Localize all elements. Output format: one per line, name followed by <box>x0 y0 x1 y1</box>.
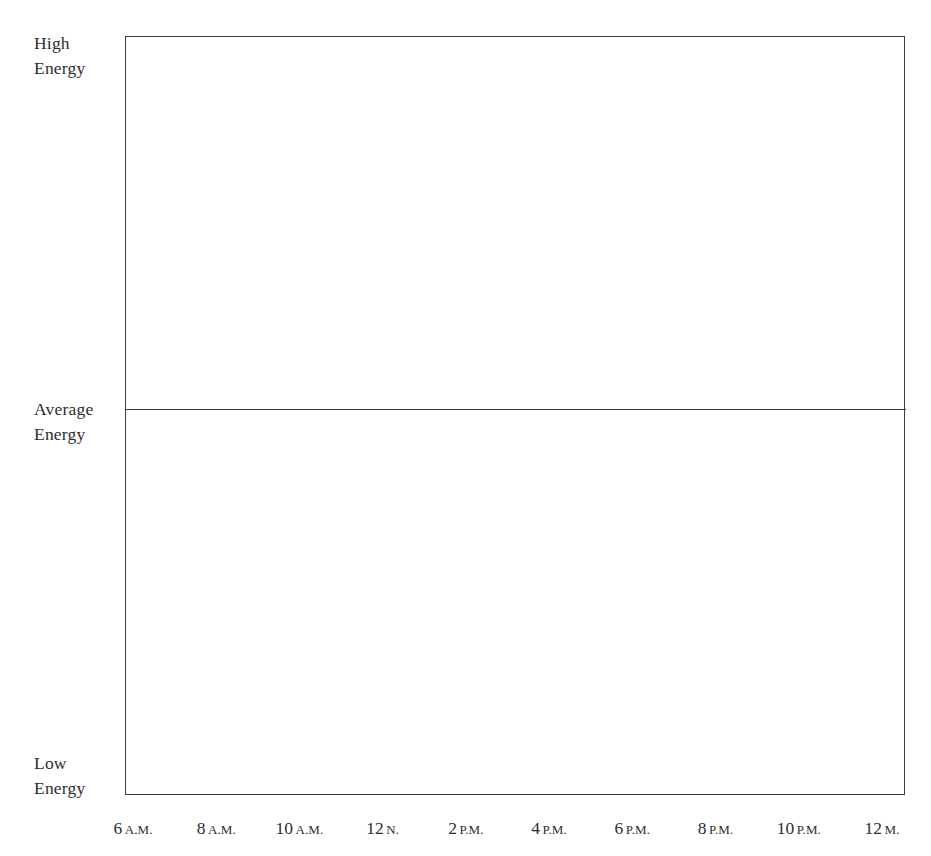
y-axis-label-average-energy: Average Energy <box>34 397 120 447</box>
x-axis-tick-label: 8A.M. <box>197 817 236 841</box>
x-axis-tick-meridiem: N. <box>386 822 399 837</box>
x-axis-tick-label: 2P.M. <box>448 817 484 841</box>
x-axis-tick-number: 10 <box>276 818 294 838</box>
energy-level-chart: High Energy Average Energy Low Energy 6A… <box>0 0 931 856</box>
x-axis-tick-number: 4 <box>531 818 540 838</box>
x-axis-tick-meridiem: P.M. <box>543 822 567 837</box>
x-axis-tick-label: 12M. <box>864 817 899 841</box>
x-axis-tick-label: 12N. <box>366 817 399 841</box>
x-axis-tick-number: 8 <box>197 818 206 838</box>
x-axis-tick-label: 6P.M. <box>615 817 651 841</box>
x-axis-tick-meridiem: P.M. <box>797 822 821 837</box>
x-axis-tick-meridiem: A.M. <box>208 822 236 837</box>
x-axis-tick-labels: 6A.M.8A.M.10A.M.12N.2P.M.4P.M.6P.M.8P.M.… <box>125 817 910 847</box>
x-axis-tick-number: 2 <box>448 818 457 838</box>
x-axis-tick-meridiem: P.M. <box>626 822 650 837</box>
x-axis-tick-number: 8 <box>698 818 707 838</box>
y-axis-label-high-energy-line2: Energy <box>34 56 120 81</box>
x-axis-tick-meridiem: P.M. <box>709 822 733 837</box>
y-axis-label-high-energy: High Energy <box>34 31 120 81</box>
y-axis-label-low-energy: Low Energy <box>34 751 120 801</box>
x-axis-tick-meridiem: A.M. <box>296 822 324 837</box>
x-axis-tick-number: 6 <box>113 818 122 838</box>
y-axis-label-low-energy-line1: Low <box>34 751 120 776</box>
x-axis-tick-number: 12 <box>864 818 882 838</box>
plot-area <box>125 36 905 795</box>
x-axis-tick-label: 6A.M. <box>113 817 152 841</box>
x-axis-tick-label: 8P.M. <box>698 817 734 841</box>
x-axis-tick-meridiem: M. <box>884 822 899 837</box>
x-axis-tick-number: 12 <box>366 818 384 838</box>
x-axis-tick-meridiem: A.M. <box>125 822 153 837</box>
x-axis-tick-number: 6 <box>615 818 624 838</box>
x-axis-tick-label: 4P.M. <box>531 817 567 841</box>
x-axis-tick-number: 10 <box>777 818 795 838</box>
y-axis-label-average-energy-line2: Energy <box>34 422 120 447</box>
x-axis-tick-label: 10A.M. <box>276 817 324 841</box>
x-axis-tick-meridiem: P.M. <box>459 822 483 837</box>
y-axis-label-average-energy-line1: Average <box>34 397 120 422</box>
average-energy-reference-line <box>125 409 906 410</box>
x-axis-tick-label: 10P.M. <box>777 817 821 841</box>
y-axis-label-high-energy-line1: High <box>34 31 120 56</box>
y-axis-label-low-energy-line2: Energy <box>34 776 120 801</box>
